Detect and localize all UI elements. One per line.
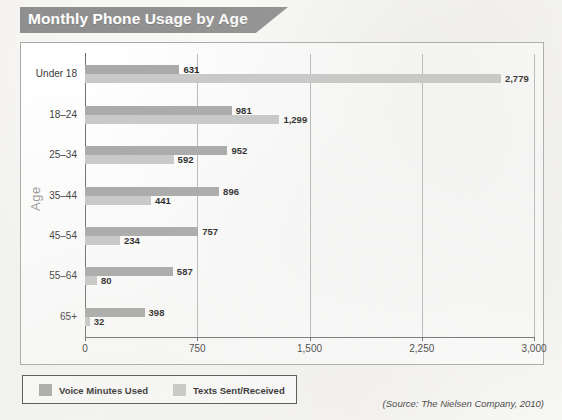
bar-value-label: 896 <box>223 187 239 196</box>
bar-texts <box>85 196 151 205</box>
x-axis-tick-label: 2,250 <box>409 343 434 354</box>
x-axis-tick <box>534 337 535 341</box>
bar-value-label: 398 <box>149 308 165 317</box>
bar-voice <box>85 65 179 74</box>
bar-value-label: 757 <box>202 227 218 236</box>
legend-label: Voice Minutes Used <box>59 385 148 396</box>
category-label: 25–34 <box>49 149 77 161</box>
chart-title: Monthly Phone Usage by Age <box>28 10 248 28</box>
legend-item-texts[interactable]: Texts Sent/Received <box>173 384 285 396</box>
bar-value-label: 2,779 <box>505 74 529 83</box>
legend: Voice Minutes UsedTexts Sent/Received <box>22 375 297 404</box>
x-axis-tick <box>422 337 423 341</box>
bar-texts <box>85 276 97 285</box>
bar-texts <box>85 74 501 83</box>
bar-group: Under 186312,779 <box>85 65 534 84</box>
bar-texts <box>85 115 279 124</box>
bar-voice <box>85 187 219 196</box>
category-label: 55–64 <box>49 270 77 282</box>
bar-group: 55–6458780 <box>85 267 534 286</box>
bar-value-label: 80 <box>101 276 112 285</box>
bar-value-label: 981 <box>236 106 252 115</box>
bar-group: 25–34952592 <box>85 146 534 165</box>
bar-group: 18–249811,299 <box>85 106 534 125</box>
bar-value-label: 592 <box>178 155 194 164</box>
x-axis-tick <box>310 337 311 341</box>
figure-page: Monthly Phone Usage by Age Age 07501,500… <box>0 0 562 420</box>
bar-value-label: 587 <box>177 267 193 276</box>
chart-frame: Age 07501,5002,2503,000 Under 186312,779… <box>20 42 544 365</box>
bar-texts <box>85 317 90 326</box>
y-axis-title: Age <box>28 186 43 211</box>
x-axis-tick-label: 750 <box>189 343 206 354</box>
category-label: 45–54 <box>49 230 77 242</box>
bar-value-label: 952 <box>231 146 247 155</box>
plot-area: 07501,5002,2503,000 Under 186312,77918–2… <box>85 54 534 337</box>
gridline <box>534 54 535 337</box>
bar-voice <box>85 106 232 115</box>
legend-swatch-texts <box>173 384 186 396</box>
x-axis-tick <box>197 337 198 341</box>
category-label: 35–44 <box>49 190 77 202</box>
bar-value-label: 631 <box>183 65 199 74</box>
bar-value-label: 32 <box>94 317 105 326</box>
bar-group: 65+39832 <box>85 308 534 327</box>
source-note: (Source: The Nielsen Company, 2010) <box>383 398 544 409</box>
category-label: 65+ <box>60 311 77 323</box>
bar-texts <box>85 236 120 245</box>
bar-value-label: 234 <box>124 236 140 245</box>
bar-voice <box>85 267 173 276</box>
bar-voice <box>85 146 227 155</box>
x-axis-tick-label: 0 <box>82 343 88 354</box>
bar-texts <box>85 155 174 164</box>
legend-swatch-voice <box>39 384 52 396</box>
x-axis-tick-label: 3,000 <box>521 343 546 354</box>
legend-label: Texts Sent/Received <box>193 385 285 396</box>
bar-group: 35–44896441 <box>85 187 534 206</box>
bar-value-label: 1,299 <box>283 115 307 124</box>
legend-item-voice[interactable]: Voice Minutes Used <box>39 384 148 396</box>
x-axis-tick-label: 1,500 <box>297 343 322 354</box>
bar-voice <box>85 227 198 236</box>
category-label: Under 18 <box>36 68 77 80</box>
category-label: 18–24 <box>49 109 77 121</box>
bar-value-label: 441 <box>155 196 171 205</box>
x-axis-tick <box>85 337 86 341</box>
bar-group: 45–54757234 <box>85 227 534 246</box>
